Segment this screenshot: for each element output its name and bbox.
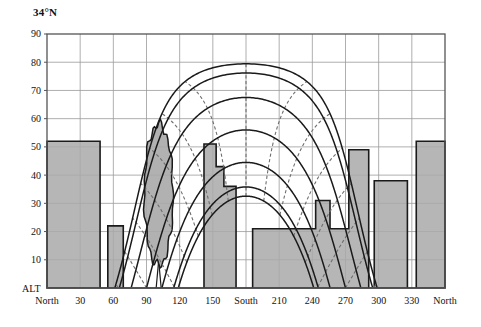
x-tick-label: North bbox=[433, 295, 456, 306]
y-tick-label: 20 bbox=[31, 226, 41, 237]
x-tick-label: 60 bbox=[108, 295, 118, 306]
y-tick-label: 40 bbox=[31, 170, 41, 181]
x-tick-label: 30 bbox=[75, 295, 85, 306]
sun-path-diagram: 34°N ALT 102030405060708090 North3060901… bbox=[0, 0, 481, 327]
x-tick-label: 90 bbox=[142, 295, 152, 306]
x-tick-label: 240 bbox=[305, 295, 320, 306]
x-tick-label: 330 bbox=[404, 295, 419, 306]
y-tick-label: 70 bbox=[31, 85, 41, 96]
y-tick-label: 10 bbox=[31, 254, 41, 265]
x-tick-label: 300 bbox=[371, 295, 386, 306]
x-tick-label: 150 bbox=[205, 295, 220, 306]
y-tick-label: 30 bbox=[31, 198, 41, 209]
y-axis-ticks: 102030405060708090 bbox=[31, 28, 47, 265]
plot-canvas: 102030405060708090 North306090120150Sout… bbox=[0, 0, 481, 327]
y-tick-label: 80 bbox=[31, 57, 41, 68]
x-tick-label: 210 bbox=[272, 295, 287, 306]
x-tick-label: North bbox=[35, 295, 58, 306]
y-tick-label: 60 bbox=[31, 113, 41, 124]
x-tick-label: South bbox=[234, 295, 257, 306]
x-tick-label: 270 bbox=[338, 295, 353, 306]
x-axis-ticks: North306090120150South210240270300330Nor… bbox=[35, 295, 456, 306]
x-tick-label: 120 bbox=[172, 295, 187, 306]
y-tick-label: 50 bbox=[31, 141, 41, 152]
y-tick-label: 90 bbox=[31, 28, 41, 39]
